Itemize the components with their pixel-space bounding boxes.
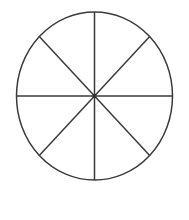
figure-canvas: [0, 0, 189, 220]
center-point-marker: [93, 94, 96, 97]
circle-eighths-diagram: [0, 0, 189, 220]
